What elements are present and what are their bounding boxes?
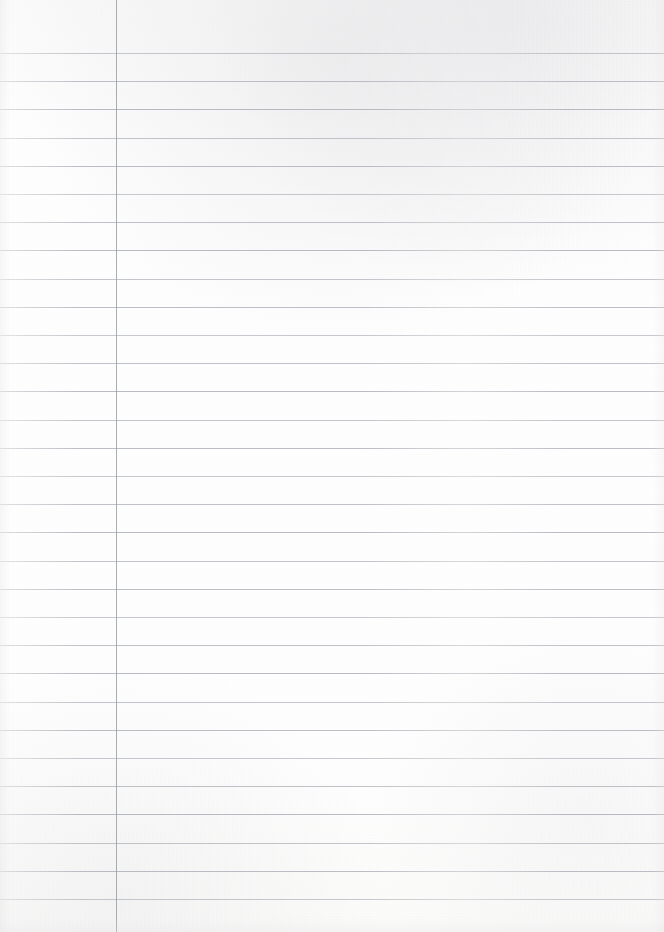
margin-rule	[116, 0, 117, 932]
page-written-content[interactable]	[124, 56, 644, 896]
ruled-line	[0, 53, 664, 54]
notebook-page	[0, 0, 664, 932]
ruled-line	[0, 899, 664, 900]
